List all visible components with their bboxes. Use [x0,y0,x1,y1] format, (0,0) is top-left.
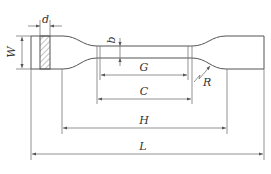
dimension-w: W [5,37,22,68]
label-l: L [138,140,146,153]
dimension-l: L [32,140,263,154]
label-b: b [105,36,118,43]
dimension-b: b [105,36,120,66]
label-d: d [42,13,49,26]
label-c: C [140,85,149,98]
dimension-h: H [63,114,226,128]
dimension-d: d [28,13,62,26]
specimen-diagram: d W b G R C H L [0,0,271,174]
label-g: G [140,61,149,74]
dimension-c: C [98,85,191,99]
label-w: W [5,45,18,58]
dimension-g: G [101,61,187,75]
dimension-r: R [194,66,211,89]
cross-section-hatch [40,36,50,69]
label-r: R [202,76,211,89]
label-h: H [138,114,149,127]
